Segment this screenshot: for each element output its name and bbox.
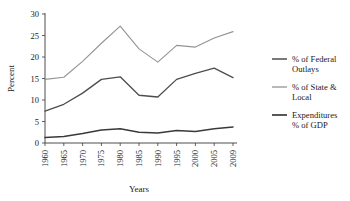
y-tick-label: 30 — [31, 9, 40, 19]
y-axis-title: Percent — [6, 65, 16, 92]
x-tick-label: 2005 — [209, 150, 219, 167]
legend-label-1: Local — [292, 92, 312, 102]
data-series-group — [45, 26, 233, 137]
y-tick-label: 5 — [35, 117, 39, 127]
y-tick-label: 15 — [31, 74, 40, 84]
x-tick-label: 1960 — [40, 150, 50, 167]
x-axis-title: Years — [129, 184, 150, 194]
chart-legend: % of FederalOutlays% of State &LocalExpe… — [272, 54, 338, 130]
legend-label-2: Expenditures — [292, 110, 338, 120]
series-line-0 — [45, 68, 233, 111]
x-tick-label: 1980 — [115, 150, 125, 167]
x-tick-label: 1995 — [172, 150, 182, 167]
x-axis-group: 1960196519701975198019851990199520002005… — [40, 143, 238, 194]
series-line-2 — [45, 127, 233, 137]
x-tick-labels: 1960196519701975198019851990199520002005… — [40, 150, 238, 167]
x-tick-label: 1975 — [96, 150, 106, 167]
legend-label-1: % of State & — [292, 82, 337, 92]
x-tick-label: 2000 — [190, 150, 200, 167]
chart-figure: 051015202530 Percent 1960196519701975198… — [0, 0, 350, 201]
y-axis-group: 051015202530 Percent — [6, 9, 45, 148]
y-tick-label: 25 — [31, 31, 40, 41]
y-tick-label: 0 — [35, 138, 39, 148]
x-tick-label: 2009 — [228, 150, 238, 167]
x-tick-label: 1990 — [153, 150, 163, 167]
x-tick-label: 1965 — [59, 150, 69, 167]
y-tick-labels: 051015202530 — [31, 9, 40, 148]
line-chart-plot: 051015202530 Percent 1960196519701975198… — [0, 0, 350, 201]
legend-label-0: % of Federal — [292, 54, 337, 64]
y-tick-label: 10 — [31, 95, 40, 105]
legend-label-0: Outlays — [292, 64, 319, 74]
legend-label-2: % of GDP — [292, 120, 328, 130]
y-tick-label: 20 — [31, 52, 40, 62]
x-tick-label: 1970 — [78, 150, 88, 167]
x-tick-label: 1985 — [134, 150, 144, 167]
